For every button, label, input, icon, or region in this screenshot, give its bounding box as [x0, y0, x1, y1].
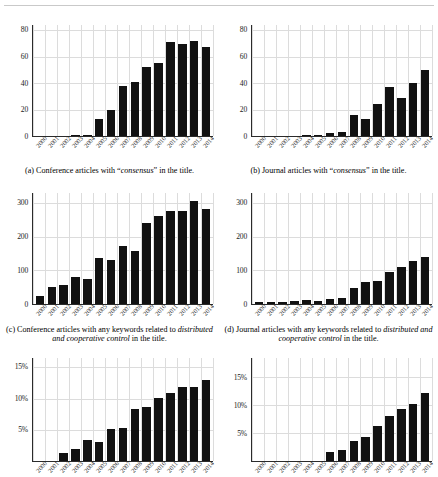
bar-slot: [200, 25, 212, 136]
bar: [190, 41, 199, 136]
bar-slot: [81, 193, 93, 304]
bar-slot: [360, 358, 372, 461]
bar-slot: [360, 193, 372, 304]
bar: [95, 258, 104, 304]
bar-slot: [34, 193, 46, 304]
bar-slot: [141, 358, 153, 461]
bar: [409, 83, 418, 136]
panel-caption-d: (d) Journal articles with any keywords r…: [221, 325, 436, 344]
bar: [107, 110, 116, 136]
x-tick-slot: 2003: [69, 137, 81, 163]
caption-text-post: in the title.: [342, 334, 379, 343]
caption-text-pre: Conference articles with any keywords re…: [15, 325, 178, 334]
x-tick-slot: 2001: [45, 137, 57, 163]
bar: [350, 115, 359, 136]
bar-slot: [70, 25, 82, 136]
bar: [154, 398, 163, 461]
x-tick-slot: 2009: [140, 137, 152, 163]
bar-slot: [105, 25, 117, 136]
x-tick-slot: 2011: [164, 462, 176, 477]
bar-slot: [46, 358, 58, 461]
x-tick-slot: 2010: [371, 462, 383, 477]
gridline: [432, 193, 433, 304]
y-tick-label: 10%: [15, 395, 28, 403]
y-tick-label: 5%: [18, 427, 28, 435]
x-tick-slot: 2004: [81, 137, 93, 163]
bar-slot: [419, 193, 431, 304]
x-tick-slot: 2014: [419, 462, 431, 477]
bar-slot: [117, 25, 129, 136]
caption-text-pre: Conference articles with “: [34, 166, 121, 175]
bar-slot: [200, 358, 212, 461]
bar: [178, 211, 187, 305]
bar-slot: [58, 358, 70, 461]
bar: [59, 285, 68, 304]
bar-slot: [360, 25, 372, 136]
bar-slot: [176, 25, 188, 136]
x-axis-f: 2000200120022003200420052006200720082009…: [251, 462, 432, 477]
bar: [409, 404, 418, 461]
bar: [83, 279, 92, 304]
bar-slot: [153, 358, 165, 461]
bar: [95, 442, 104, 461]
y-tick-label: 0: [24, 301, 28, 309]
x-tick-slot: 2004: [300, 462, 312, 477]
bar-slot: [289, 358, 301, 461]
bar-slot: [265, 193, 277, 304]
caption-text-post: ” in the title.: [154, 166, 194, 175]
x-tick-slot: 2003: [69, 462, 81, 477]
bar: [190, 201, 199, 304]
chart-panel-d: 0100200300200020012002200320042005200620…: [219, 180, 438, 348]
x-tick-slot: 2013: [407, 462, 419, 477]
x-tick-slot: 2006: [105, 137, 117, 163]
bar-slot: [324, 193, 336, 304]
bar-slot: [265, 358, 277, 461]
bar-slot: [372, 358, 384, 461]
plot-area-c: 0100200300200020012002200320042005200620…: [2, 193, 213, 305]
panel-caption-b: (b) Journal articles with “consensus” in…: [221, 166, 436, 176]
bar-slot: [277, 25, 289, 136]
x-tick-slot: 2000: [252, 462, 264, 477]
bar-slot: [300, 193, 312, 304]
x-tick-slot: 2004: [300, 137, 312, 163]
y-tick-label: 80: [21, 27, 28, 35]
x-tick-slot: 2007: [117, 137, 129, 163]
bar-slot: [407, 193, 419, 304]
x-tick-slot: 2008: [348, 462, 360, 477]
x-tick-slot: 2012: [395, 137, 407, 163]
plot-frame-f: [251, 358, 432, 462]
bar-slot: [129, 25, 141, 136]
bar: [119, 428, 128, 461]
x-tick-slot: 2002: [276, 137, 288, 163]
x-tick-label: 2014: [202, 135, 215, 149]
bar-series-b: [252, 25, 432, 136]
bar-slot: [419, 358, 431, 461]
x-tick-slot: 2000: [33, 462, 45, 477]
x-tick-slot: 2014: [419, 137, 431, 163]
bar: [385, 416, 394, 461]
bar-slot: [395, 358, 407, 461]
bar-slot: [117, 193, 129, 304]
bar: [142, 407, 151, 461]
y-tick-label: 100: [17, 267, 28, 275]
plot-frame-c: [32, 193, 213, 305]
bar-slot: [188, 358, 200, 461]
bar-slot: [395, 193, 407, 304]
bar-slot: [129, 193, 141, 304]
bar: [166, 42, 175, 136]
bar: [202, 47, 211, 136]
y-axis-c: 0100200300: [2, 193, 32, 305]
y-tick-label: 0: [243, 133, 247, 141]
caption-label: (d): [225, 325, 234, 334]
x-tick-slot: 2000: [252, 137, 264, 163]
bar-slot: [105, 193, 117, 304]
bar-slot: [348, 358, 360, 461]
y-tick-label: 40: [240, 80, 247, 88]
x-tick-slot: 2000: [33, 137, 45, 163]
caption-label: (c): [6, 325, 15, 334]
bar: [119, 246, 128, 304]
gridline: [432, 25, 433, 136]
bar-slot: [419, 25, 431, 136]
caption-text-post: in the title.: [130, 334, 167, 343]
